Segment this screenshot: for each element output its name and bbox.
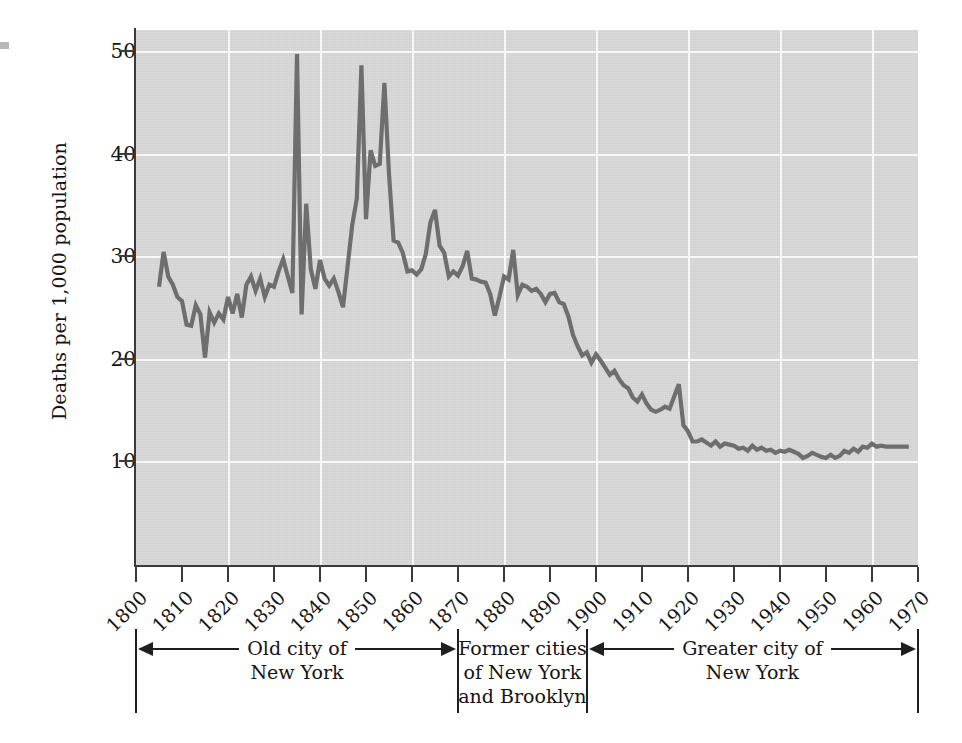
era-label-line: Former cities — [458, 636, 587, 660]
x-tick-label-1940: 1940 — [747, 588, 794, 635]
x-tick-mark-1800 — [135, 567, 137, 582]
x-tick-label-1820: 1820 — [195, 588, 242, 635]
x-tick-mark-1880 — [503, 567, 505, 582]
x-tick-mark-1830 — [273, 567, 275, 582]
x-tick-mark-1810 — [181, 567, 183, 582]
x-tick-label-1840: 1840 — [287, 588, 334, 635]
series-line-chart — [136, 30, 918, 565]
plot-area — [136, 30, 918, 565]
y-tick-10: 10 — [58, 451, 136, 471]
x-tick-mark-1920 — [687, 567, 689, 582]
x-tick-label-1870: 1870 — [425, 588, 472, 635]
x-tick-label-1850: 1850 — [333, 588, 380, 635]
death-rate-chart-figure: Deaths per 1,000 population 5040302010 1… — [0, 0, 962, 743]
y-tick-30: 30 — [58, 246, 136, 266]
era-band-former-cities: Former citiesof New Yorkand Brooklyn — [458, 636, 587, 716]
x-tick-label-1880: 1880 — [471, 588, 518, 635]
x-tick-mark-1960 — [871, 567, 873, 582]
x-tick-mark-1940 — [779, 567, 781, 582]
x-tick-label-1920: 1920 — [655, 588, 702, 635]
x-tick-mark-1860 — [411, 567, 413, 582]
era-label-old-city: Old city ofNew York — [136, 636, 458, 684]
x-tick-label-1860: 1860 — [379, 588, 426, 635]
era-label-line: New York — [136, 660, 458, 684]
x-tick-mark-1850 — [365, 567, 367, 582]
x-tick-mark-1900 — [595, 567, 597, 582]
era-band-old-city: Old city ofNew York — [136, 636, 458, 716]
y-tick-40: 40 — [58, 144, 136, 164]
x-tick-label-1890: 1890 — [517, 588, 564, 635]
x-tick-mark-1840 — [319, 567, 321, 582]
era-label-line: Greater city of — [674, 636, 830, 660]
era-label-line: of New York — [458, 660, 587, 684]
era-label-line: New York — [587, 660, 918, 684]
era-label-former-cities: Former citiesof New Yorkand Brooklyn — [458, 636, 587, 708]
x-tick-label-1800: 1800 — [103, 588, 150, 635]
x-tick-mark-1930 — [733, 567, 735, 582]
x-tick-label-1960: 1960 — [839, 588, 886, 635]
x-tick-label-1950: 1950 — [793, 588, 840, 635]
x-tick-label-1830: 1830 — [241, 588, 288, 635]
x-tick-mark-1910 — [641, 567, 643, 582]
x-tick-label-1810: 1810 — [149, 588, 196, 635]
scan-edge-mark — [0, 42, 9, 49]
x-tick-mark-1970 — [917, 567, 919, 582]
x-tick-mark-1870 — [457, 567, 459, 582]
era-label-line: and Brooklyn — [458, 684, 587, 708]
series-polyline — [159, 54, 909, 458]
y-tick-50: 50 — [58, 41, 136, 61]
x-tick-label-1970: 1970 — [885, 588, 932, 635]
x-tick-label-1910: 1910 — [609, 588, 656, 635]
y-axis-title: Deaths per 1,000 population — [48, 116, 70, 446]
era-band-greater-city: Greater city ofNew York — [587, 636, 918, 716]
x-tick-label-1930: 1930 — [701, 588, 748, 635]
x-axis-line — [134, 565, 918, 567]
x-tick-mark-1820 — [227, 567, 229, 582]
era-label-greater-city: Greater city ofNew York — [587, 636, 918, 684]
y-tick-20: 20 — [58, 349, 136, 369]
era-label-line: Old city of — [239, 636, 354, 660]
x-tick-mark-1890 — [549, 567, 551, 582]
x-tick-mark-1950 — [825, 567, 827, 582]
